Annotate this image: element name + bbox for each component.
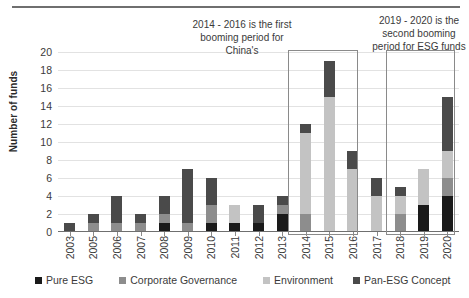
top-divider-rule	[12, 6, 460, 8]
stacked-bar	[182, 169, 193, 232]
y-axis-tick-label: 14	[40, 100, 52, 112]
bar-slot	[412, 52, 436, 232]
x-label-slot: 2005	[82, 236, 106, 272]
stacked-bar	[418, 169, 429, 232]
y-axis-title: Number of funds	[8, 52, 19, 172]
stacked-bar	[371, 178, 382, 232]
stacked-bar	[253, 205, 264, 232]
x-label-slot: 2014	[294, 236, 318, 272]
x-axis-tick-label: 2007	[135, 236, 147, 259]
legend-swatch	[119, 277, 126, 284]
bar-segment	[371, 196, 382, 232]
x-label-slot: 2019	[412, 236, 436, 272]
bar-segment	[300, 133, 311, 214]
bar-segment	[111, 196, 122, 223]
bar-segment	[300, 214, 311, 232]
x-axis-tick-label: 2012	[253, 236, 265, 259]
legend-swatch	[353, 277, 360, 284]
bar-slot	[152, 52, 176, 232]
x-label-slot: 2006	[105, 236, 129, 272]
bar-segment	[442, 151, 453, 178]
x-axis-tick-label: 2013	[276, 236, 288, 259]
x-axis-tick-label: 2010	[205, 236, 217, 259]
stacked-bar	[111, 196, 122, 232]
x-axis-tick-label: 2003	[64, 236, 76, 259]
bar-segment	[371, 178, 382, 196]
x-label-slot: 2018	[388, 236, 412, 272]
bar-segment	[395, 196, 406, 214]
x-axis-baseline	[58, 231, 459, 233]
bar-segment	[418, 169, 429, 205]
x-axis-tick-label: 2019	[418, 236, 430, 259]
x-axis-tick-labels: 2003200520062007200820092010201120122013…	[58, 236, 459, 272]
x-axis-tick-label: 2020	[441, 236, 453, 259]
plot-area: 20181614121086420	[58, 52, 459, 232]
x-axis-tick-label: 2014	[300, 236, 312, 259]
bar-segment	[395, 187, 406, 196]
bar-segment	[88, 214, 99, 223]
legend-swatch	[35, 277, 42, 284]
x-axis-tick-label: 2015	[323, 236, 335, 259]
annotation-first-booming-period: 2014 - 2016 is the first booming period …	[190, 18, 294, 57]
legend-label: Pan-ESG Concept	[364, 274, 450, 286]
esg-funds-stacked-bar-chart: Number of funds 20181614121086420 200320…	[0, 0, 469, 298]
bar-slot	[58, 52, 82, 232]
bar-slot	[388, 52, 412, 232]
y-axis-tick-label: 20	[40, 46, 52, 58]
bar-slot	[82, 52, 106, 232]
stacked-bar	[135, 214, 146, 232]
stacked-bar	[442, 97, 453, 232]
stacked-bar	[88, 214, 99, 232]
bar-slot	[129, 52, 153, 232]
bar-segment	[395, 214, 406, 232]
bar-segment	[277, 205, 288, 214]
stacked-bar	[206, 178, 217, 232]
x-label-slot: 2007	[129, 236, 153, 272]
bar-slot	[270, 52, 294, 232]
x-label-slot: 2003	[58, 236, 82, 272]
bar-segment	[159, 214, 170, 223]
bar-slot	[318, 52, 342, 232]
bar-slot	[341, 52, 365, 232]
x-label-slot: 2020	[436, 236, 460, 272]
annotation-second-booming-period: 2019 - 2020 is the second booming period…	[372, 14, 466, 53]
bar-slot	[294, 52, 318, 232]
y-axis-tick-label: 6	[46, 172, 52, 184]
chart-legend: Pure ESGCorporate GovernanceEnvironmentP…	[30, 274, 460, 286]
bar-slot	[200, 52, 224, 232]
bar-series-group	[58, 52, 459, 232]
bar-segment	[347, 169, 358, 232]
bar-segment	[135, 214, 146, 223]
x-label-slot: 2010	[200, 236, 224, 272]
stacked-bar	[395, 187, 406, 232]
y-axis-tick-label: 0	[46, 226, 52, 238]
x-axis-tick-label: 2009	[182, 236, 194, 259]
x-label-slot: 2012	[247, 236, 271, 272]
bar-segment	[324, 61, 335, 97]
x-axis-tick-label: 2016	[347, 236, 359, 259]
x-axis-tick-label: 2017	[371, 236, 383, 259]
bar-segment	[300, 124, 311, 133]
bar-slot	[176, 52, 200, 232]
bar-segment	[347, 151, 358, 169]
x-label-slot: 2011	[223, 236, 247, 272]
bar-slot	[436, 52, 460, 232]
bar-slot	[223, 52, 247, 232]
x-axis-tick-label: 2011	[229, 236, 241, 259]
bar-segment	[277, 214, 288, 232]
bar-slot	[247, 52, 271, 232]
legend-item: Pan-ESG Concept	[353, 274, 450, 286]
bar-slot	[105, 52, 129, 232]
bar-segment	[442, 97, 453, 151]
y-axis-tick-label: 4	[46, 190, 52, 202]
x-label-slot: 2009	[176, 236, 200, 272]
legend-label: Corporate Governance	[130, 274, 237, 286]
stacked-bar	[277, 196, 288, 232]
y-axis-tick-label: 18	[40, 64, 52, 76]
bar-segment	[159, 196, 170, 214]
stacked-bar	[300, 124, 311, 232]
bar-segment	[442, 196, 453, 232]
legend-item: Environment	[263, 274, 333, 286]
x-label-slot: 2008	[152, 236, 176, 272]
bar-segment	[324, 97, 335, 232]
